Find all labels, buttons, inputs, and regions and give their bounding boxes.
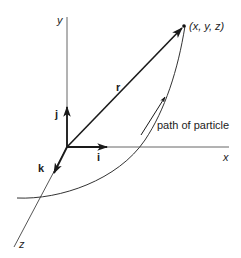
path-of-particle-label: path of particle bbox=[157, 120, 229, 131]
z-axis-label: z bbox=[19, 239, 25, 250]
diagram-canvas: y x z j i k r (x, y, z) path of particle bbox=[0, 0, 241, 258]
unit-vector-i-label: i bbox=[97, 152, 100, 163]
y-axis-label: y bbox=[57, 15, 63, 26]
position-vector-r-label: r bbox=[116, 82, 120, 93]
point-dot bbox=[182, 24, 186, 28]
unit-vector-j-label: j bbox=[55, 109, 58, 120]
point-coordinates-label: (x, y, z) bbox=[189, 21, 224, 32]
unit-vector-k bbox=[54, 147, 67, 173]
unit-vector-k-label: k bbox=[38, 163, 44, 174]
x-axis-label: x bbox=[223, 152, 229, 163]
